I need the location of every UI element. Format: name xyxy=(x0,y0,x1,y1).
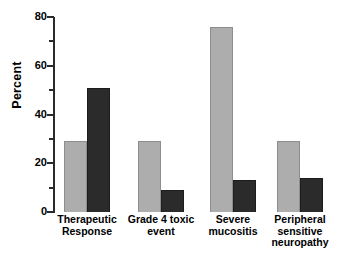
bar-gray-series-1 xyxy=(138,141,161,212)
x-axis-category-labels: Therapeutic ResponseGrade 4 toxic eventS… xyxy=(0,214,349,259)
y-axis-tick-major xyxy=(47,65,54,67)
bar-group xyxy=(64,17,110,212)
y-axis-tick-minor xyxy=(49,138,54,140)
bar-dark-series-1 xyxy=(161,190,184,212)
y-axis-tick-label: 80 xyxy=(19,11,47,22)
y-axis-tick-major xyxy=(47,16,54,18)
bar-dark-series-0 xyxy=(87,88,110,212)
bar-gray-series-0 xyxy=(64,141,87,212)
plot-area xyxy=(55,17,349,212)
y-axis-tick-label: 60 xyxy=(19,60,47,71)
bar-group xyxy=(277,17,323,212)
y-axis-tick-minor xyxy=(49,89,54,91)
y-axis-tick-label: 20 xyxy=(19,157,47,168)
bar-dark-series-3 xyxy=(300,178,323,212)
category-label-3: Peripheral sensitive neuropathy xyxy=(255,214,345,249)
y-axis-tick-minor xyxy=(49,187,54,189)
bar-group xyxy=(138,17,184,212)
y-axis-tick-label: 40 xyxy=(19,109,47,120)
y-axis-tick-major xyxy=(47,162,54,164)
bar-group xyxy=(210,17,256,212)
bar-gray-series-2 xyxy=(210,27,233,212)
y-axis-tick-major xyxy=(47,114,54,116)
percent-bar-chart: Percent 020406080 Therapeutic ResponseGr… xyxy=(0,0,349,259)
y-axis-tick-minor xyxy=(49,40,54,42)
bar-gray-series-3 xyxy=(277,141,300,212)
bar-dark-series-2 xyxy=(233,180,256,212)
